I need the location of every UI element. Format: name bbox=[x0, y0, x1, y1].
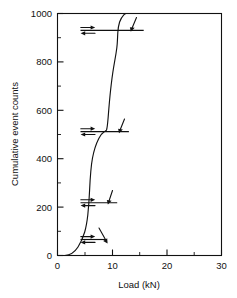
down-arrowhead-icon bbox=[130, 27, 135, 32]
cumulative-event-count-chart: 0 200 400 600 800 1000 0 10 20 30 Load (… bbox=[0, 0, 237, 298]
left-arrowhead-icon bbox=[81, 204, 86, 208]
y-tick-label-1000: 1000 bbox=[31, 8, 52, 19]
x-tick-label-0: 0 bbox=[55, 260, 60, 271]
right-arrowhead-icon bbox=[91, 127, 96, 131]
annotation-arrow-930 bbox=[130, 18, 137, 32]
y-tick-label-600: 600 bbox=[36, 105, 52, 116]
annotation-arrow-66 bbox=[99, 228, 108, 244]
y-axis-title: Cumulative event counts bbox=[9, 82, 20, 186]
x-axis-title: Load (kN) bbox=[118, 279, 160, 290]
right-arrowhead-icon bbox=[91, 235, 96, 239]
x-tick-label-20: 20 bbox=[162, 260, 173, 271]
right-arrowhead-icon bbox=[91, 198, 96, 202]
y-tick-label-0: 0 bbox=[47, 250, 52, 261]
x-tick-label-10: 10 bbox=[107, 260, 118, 271]
left-arrowhead-icon bbox=[81, 132, 86, 136]
left-arrowhead-icon bbox=[81, 31, 86, 35]
right-arrowhead-icon bbox=[91, 25, 96, 29]
x-tick-label-30: 30 bbox=[216, 260, 227, 271]
y-tick-label-800: 800 bbox=[36, 56, 52, 67]
y-tick-label-400: 400 bbox=[36, 153, 52, 164]
figure-container: 0 200 400 600 800 1000 0 10 20 30 Load (… bbox=[0, 0, 237, 298]
y-tick-label-200: 200 bbox=[36, 202, 52, 213]
